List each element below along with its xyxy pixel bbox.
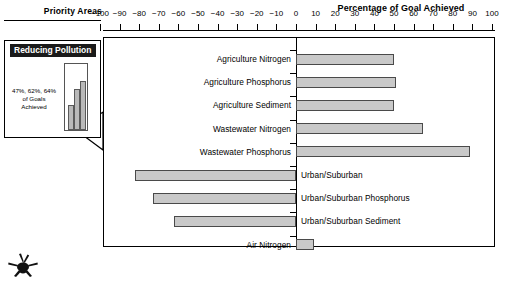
inset-note-line-2: of Goals	[11, 95, 57, 103]
bar	[153, 193, 296, 204]
inset-note-line-3: Achieved	[11, 103, 57, 111]
axis-tick	[472, 24, 473, 31]
bar	[296, 100, 394, 111]
axis-tick	[139, 24, 140, 31]
crab-icon	[6, 250, 40, 278]
zero-baseline	[296, 37, 297, 247]
inset-mini-bar-chart	[64, 63, 88, 131]
bar	[135, 170, 296, 181]
category-tick	[290, 96, 296, 97]
bar	[296, 239, 314, 250]
category-tick	[290, 212, 296, 213]
bar-label: Agriculture Sediment	[100, 100, 291, 110]
axis-tick	[237, 24, 238, 31]
axis-tick	[355, 24, 356, 31]
x-axis-line	[103, 30, 495, 31]
axis-tick	[276, 24, 277, 31]
axis-tick	[335, 24, 336, 31]
axis-tick	[453, 24, 454, 31]
axis-tick	[257, 24, 258, 31]
axis-tick	[296, 24, 297, 31]
infographic-root: Priority Areas Percentage of Goal Achiev…	[0, 0, 506, 281]
axis-tick	[374, 24, 375, 31]
axis-tick-label: 100	[479, 9, 505, 18]
inset-note-line-1: 47%, 62%, 64%	[11, 87, 57, 95]
inset-callout: Reducing Pollution 47%, 62%, 64% of Goal…	[4, 40, 101, 138]
bar-label: Wastewater Nitrogen	[100, 124, 291, 134]
axis-tick	[492, 24, 493, 31]
axis-tick	[159, 24, 160, 31]
category-tick	[290, 236, 296, 237]
category-tick	[290, 120, 296, 121]
inset-note: 47%, 62%, 64% of Goals Achieved	[11, 87, 57, 111]
category-tick	[290, 143, 296, 144]
axis-tick	[414, 24, 415, 31]
inset-mini-bar	[80, 81, 86, 130]
bar	[296, 77, 396, 88]
axis-tick	[433, 24, 434, 31]
bar-label: Urban/Suburban Sediment	[301, 216, 400, 226]
category-tick	[290, 73, 296, 74]
bar-label: Wastewater Phosphorus	[100, 147, 291, 157]
axis-tick	[218, 24, 219, 31]
bar-label: Air Nitrogen	[100, 240, 291, 250]
axis-tick	[198, 24, 199, 31]
category-tick	[290, 50, 296, 51]
bar	[296, 54, 394, 65]
x-axis: −100−90−80−70−60−50−40−30−20−10010203040…	[0, 0, 506, 32]
plot-area	[103, 37, 495, 247]
axis-tick	[316, 24, 317, 31]
bar-label: Agriculture Nitrogen	[100, 54, 291, 64]
bar	[296, 146, 470, 157]
axis-tick	[394, 24, 395, 31]
category-tick	[290, 189, 296, 190]
bar-label: Agriculture Phosphorus	[100, 77, 291, 87]
bar-label: Urban/Suburban Phosphorus	[301, 193, 410, 203]
axis-tick	[178, 24, 179, 31]
bar	[296, 123, 423, 134]
inset-title: Reducing Pollution	[10, 44, 96, 57]
bar-label: Urban/Suburban	[301, 170, 363, 180]
axis-tick	[100, 24, 101, 31]
category-tick	[290, 166, 296, 167]
bar	[174, 216, 296, 227]
axis-tick	[120, 24, 121, 31]
